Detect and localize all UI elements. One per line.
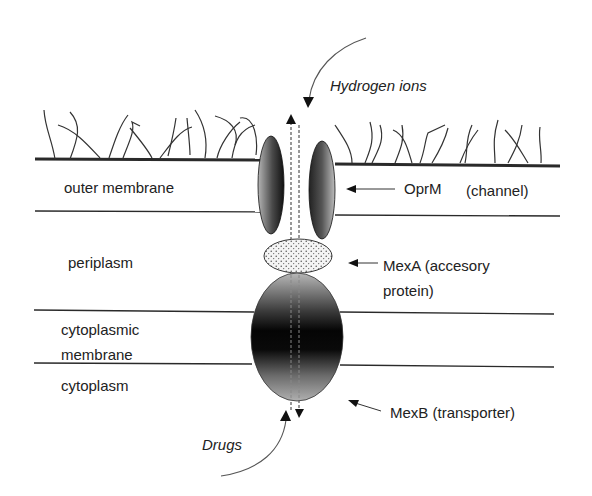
drugs-label: Drugs bbox=[202, 437, 242, 452]
cytoplasmic-membrane-label-1: cytoplasmic bbox=[61, 322, 139, 337]
mexb-label: MexB (transporter) bbox=[390, 405, 515, 420]
hydrogen-ions-label: Hydrogen ions bbox=[330, 78, 427, 93]
down-arrowhead-icon bbox=[295, 409, 304, 418]
cyto-membrane-top-line-right bbox=[340, 312, 554, 314]
mexa-label-1: MexA (accesory bbox=[383, 258, 490, 273]
cyto-membrane-bottom-line-right bbox=[340, 365, 554, 367]
oprm-arrowhead-icon bbox=[346, 185, 356, 193]
mexa-ellipse bbox=[264, 239, 332, 273]
outer-membrane-bottom-line-right bbox=[335, 215, 560, 216]
mexb-arrowhead-icon bbox=[348, 400, 359, 407]
outer-membrane-bottom-line bbox=[35, 211, 262, 212]
mexa-label-2: protein) bbox=[383, 283, 434, 298]
outer-membrane-label: outer membrane bbox=[64, 180, 174, 195]
oprm-right-ellipse bbox=[309, 141, 335, 239]
cytoplasmic-membrane-label-2: membrane bbox=[61, 347, 133, 362]
mexa-arrowhead-icon bbox=[348, 259, 358, 267]
oprm-left-ellipse bbox=[258, 136, 284, 234]
outer-membrane-top-line-right bbox=[335, 164, 560, 166]
up-arrowhead-icon bbox=[286, 114, 296, 124]
drugs-arrowhead-icon bbox=[280, 410, 291, 421]
mexb-ellipse bbox=[251, 273, 343, 401]
periplasm-label: periplasm bbox=[68, 255, 133, 270]
oprm-role-label: (channel) bbox=[466, 183, 529, 198]
oprm-label: OprM bbox=[404, 181, 442, 196]
cytoplasm-label: cytoplasm bbox=[61, 378, 129, 393]
hydrogen-arrowhead-icon bbox=[303, 97, 314, 108]
outer-membrane-top-line bbox=[35, 159, 262, 160]
cyto-membrane-top-line bbox=[34, 310, 254, 312]
efflux-pump-diagram bbox=[0, 0, 592, 496]
cyto-membrane-bottom-line bbox=[34, 363, 252, 364]
